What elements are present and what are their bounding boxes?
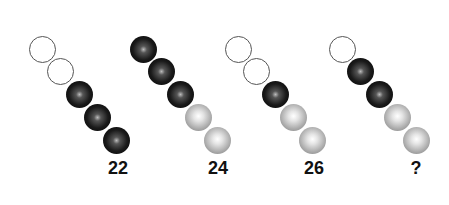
ball-black-icon (167, 81, 194, 108)
ball-gray-icon (204, 127, 231, 154)
ball-gray-icon (299, 127, 326, 154)
ball-gray-icon (185, 104, 212, 131)
ball-empty-icon (29, 36, 56, 63)
ball-empty-icon (47, 58, 74, 85)
ball-empty-icon (225, 36, 252, 63)
group-label-4: ? (411, 158, 422, 179)
ball-gray-icon (280, 104, 307, 131)
ball-black-icon (347, 58, 374, 85)
group-label-2: 24 (208, 158, 228, 179)
ball-black-icon (130, 36, 157, 63)
ball-black-icon (103, 127, 130, 154)
ball-gray-icon (384, 104, 411, 131)
ball-black-icon (148, 58, 175, 85)
ball-empty-icon (329, 36, 356, 63)
ball-black-icon (262, 81, 289, 108)
ball-black-icon (366, 81, 393, 108)
ball-gray-icon (403, 127, 430, 154)
group-label-1: 22 (108, 158, 128, 179)
ball-empty-icon (243, 58, 270, 85)
ball-black-icon (84, 104, 111, 131)
group-label-3: 26 (304, 158, 324, 179)
ball-black-icon (66, 81, 93, 108)
